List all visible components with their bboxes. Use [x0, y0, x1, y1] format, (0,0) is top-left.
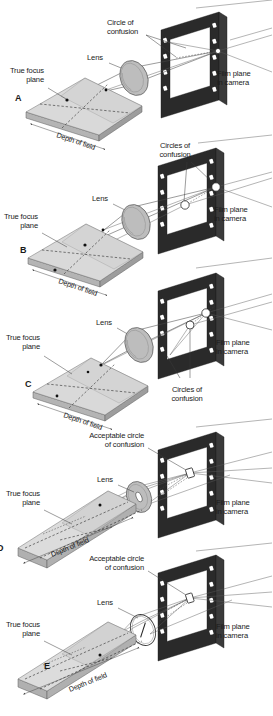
coc-label-b-line2: confusion	[159, 150, 190, 159]
label-lens-a: Lens	[87, 53, 126, 70]
film-plane-label-a-line2: in camera	[217, 78, 250, 87]
figure-canvas: Depth of field Circle of confusion Lens …	[0, 0, 273, 716]
acoc-label-d-line2: of confusion	[105, 440, 144, 449]
label-true-focus-plane-c: True focus plane	[6, 333, 72, 374]
lens-c	[120, 323, 159, 366]
label-lens-b: Lens	[92, 194, 129, 212]
coc-label-a-line2: confusion	[107, 27, 138, 36]
film-plane-label-c-line2: in camera	[216, 347, 249, 356]
acoc-label-e-line2: of confusion	[105, 563, 144, 572]
coc-label-c-line2: confusion	[171, 394, 202, 403]
focus-plane-label-a-line2: plane	[26, 75, 44, 84]
label-film-plane-e: Film plane in camera	[216, 622, 250, 640]
lens-label-a: Lens	[87, 53, 103, 62]
label-film-plane-b: Film plane in camera	[214, 205, 248, 223]
focus-plane-label-b-line2: plane	[20, 221, 38, 230]
film-plane-b	[158, 148, 224, 254]
lens-label-c: Lens	[96, 318, 112, 327]
label-film-plane-c: Film plane in camera	[216, 338, 250, 356]
film-plane-d	[158, 432, 224, 538]
label-lens-c: Lens	[96, 318, 131, 336]
lens-label-b: Lens	[92, 194, 108, 203]
label-true-focus-plane-b: True focus plane	[4, 212, 67, 247]
panel-d: Depth of field Acceptable circle of conf…	[0, 419, 272, 568]
film-plane-label-e-line2: in camera	[216, 631, 249, 640]
film-plane-e	[158, 555, 224, 661]
focus-plane-b	[28, 224, 143, 287]
label-lens-e: Lens	[97, 598, 138, 618]
lens-label-e: Lens	[97, 598, 113, 607]
lens-b	[117, 200, 156, 243]
label-film-plane-a: Film plane in camera	[217, 69, 251, 87]
label-lens-d: Lens	[97, 475, 134, 492]
lens-a	[115, 56, 154, 99]
film-plane-label-d-line2: in camera	[216, 507, 249, 516]
depth-of-field-figure: Depth of field Circle of confusion Lens …	[0, 0, 273, 716]
coc-a	[215, 48, 220, 53]
film-plane-a	[161, 12, 227, 118]
focus-plane-label-c-line2: plane	[22, 342, 40, 351]
label-true-focus-plane-d: True focus plane	[6, 489, 72, 524]
focus-plane-c	[33, 358, 148, 421]
lens-label-d: Lens	[97, 475, 113, 484]
focus-plane-label-d-line2: plane	[22, 498, 40, 507]
label-film-plane-d: Film plane in camera	[216, 498, 250, 516]
focus-plane-label-e-line2: plane	[22, 629, 40, 638]
panel-letter-e: E	[44, 661, 50, 671]
label-true-focus-plane-e: True focus plane	[6, 620, 72, 655]
panel-letter-c: C	[25, 379, 32, 389]
panel-letter-b: B	[20, 245, 27, 255]
panel-letter-d: D	[0, 543, 4, 553]
film-plane-label-b-line2: in camera	[214, 214, 247, 223]
panel-letter-a: A	[15, 93, 22, 103]
